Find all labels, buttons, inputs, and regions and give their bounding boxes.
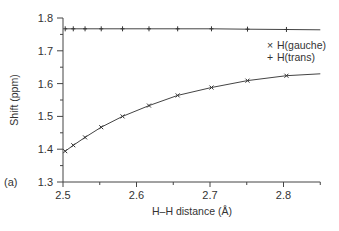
legend-marker-h-gauche: × [267, 39, 273, 51]
data-point-h-trans [245, 27, 249, 32]
legend-marker-h-trans: + [267, 51, 273, 63]
x-tick-label: 2.6 [129, 189, 144, 201]
chart: 2.52.62.72.81.31.41.51.61.71.8 ×H(gauche… [0, 0, 339, 231]
y-tick-label: 1.4 [38, 143, 53, 155]
legend: ×H(gauche)+H(trans) [267, 39, 326, 63]
legend-label-h-trans: H(trans) [277, 51, 315, 63]
y-tick-label: 1.8 [38, 12, 53, 24]
y-axis-label: Shift (ppm) [8, 74, 20, 125]
data-point-h-gauche [71, 143, 75, 147]
y-tick-label: 1.3 [38, 176, 53, 188]
data-point-h-gauche [99, 125, 103, 129]
panel-label: (a) [4, 176, 17, 188]
legend-label-h-gauche: H(gauche) [277, 39, 326, 51]
y-tick-label: 1.5 [38, 110, 53, 122]
x-tick-label: 2.5 [55, 189, 70, 201]
data-point-h-trans [176, 26, 180, 31]
y-tick-label: 1.6 [38, 78, 53, 90]
data-point-h-gauche [63, 149, 67, 153]
x-tick-label: 2.8 [276, 189, 291, 201]
data-point-h-trans [71, 26, 75, 31]
data-point-h-trans [121, 26, 125, 31]
data-point-h-trans [83, 26, 87, 31]
data-point-h-trans [209, 26, 213, 31]
series-line-h-trans [65, 29, 320, 30]
data-point-h-trans [147, 26, 151, 31]
data-point-h-gauche [121, 114, 125, 118]
data-point-h-trans [63, 26, 67, 31]
data-point-h-trans [99, 26, 103, 31]
x-axis-label: H–H distance (Å) [152, 205, 232, 217]
series-line-h-gauche [65, 74, 320, 151]
data-point-h-gauche [83, 135, 87, 139]
y-tick-label: 1.7 [38, 45, 53, 57]
data-point-h-trans [284, 27, 288, 32]
x-tick-label: 2.7 [202, 189, 217, 201]
